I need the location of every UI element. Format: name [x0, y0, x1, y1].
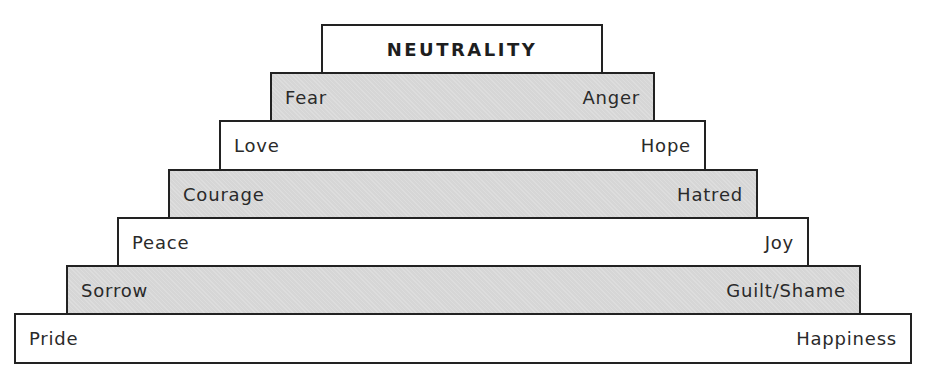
tier-left-label: Pride [16, 328, 78, 349]
tier-left-label: Fear [272, 87, 327, 108]
tier-peace-joy: Peace Joy [117, 217, 809, 268]
tier-love-hope: Love Hope [219, 120, 706, 171]
tier-title: NEUTRALITY [387, 39, 538, 60]
tier-left-label: Sorrow [68, 280, 148, 301]
tier-right-label: Hope [641, 135, 704, 156]
tier-left-label: Courage [170, 184, 265, 205]
tier-right-label: Joy [765, 232, 807, 253]
tier-right-label: Happiness [796, 328, 910, 349]
tier-right-label: Anger [582, 87, 653, 108]
tier-fear-anger: Fear Anger [270, 72, 655, 122]
tier-left-label: Peace [119, 232, 189, 253]
tier-right-label: Hatred [677, 184, 756, 205]
tier-left-label: Love [221, 135, 280, 156]
tier-sorrow-guilt: Sorrow Guilt/Shame [66, 265, 861, 315]
tier-right-label: Guilt/Shame [726, 280, 859, 301]
tier-courage-hatred: Courage Hatred [168, 169, 758, 219]
tier-pride-happiness: Pride Happiness [14, 313, 912, 364]
tier-neutrality: NEUTRALITY [321, 24, 603, 74]
